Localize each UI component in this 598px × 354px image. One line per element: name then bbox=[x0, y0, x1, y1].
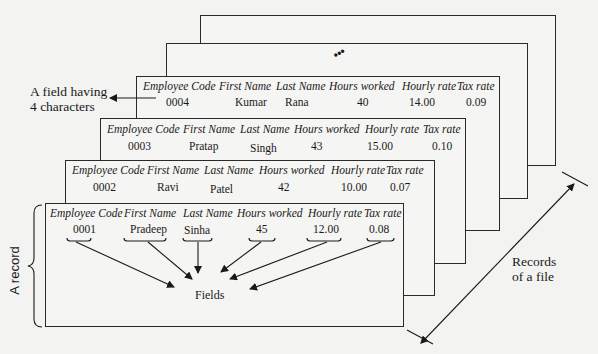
arrow-rate bbox=[230, 242, 327, 279]
records-label-line1: Records bbox=[512, 254, 556, 269]
records-tick-top bbox=[562, 172, 588, 186]
arrow-tax bbox=[250, 242, 381, 289]
brace-code bbox=[67, 238, 91, 241]
records-tick-bottom bbox=[407, 330, 433, 344]
record-label: A record bbox=[7, 246, 22, 294]
arrow-code bbox=[76, 242, 174, 287]
brace-tax bbox=[367, 238, 394, 241]
brace-hours bbox=[249, 238, 275, 241]
brace-rate bbox=[307, 238, 341, 241]
brace-first bbox=[124, 238, 166, 241]
arrow-hours bbox=[221, 242, 261, 272]
field-annotation-line2: 4 characters bbox=[30, 99, 107, 114]
records-of-file-label: Records of a file bbox=[512, 254, 556, 284]
records-label-line2: of a file bbox=[512, 269, 556, 284]
arrow-first bbox=[148, 242, 192, 279]
field-annotation-line1: A field having bbox=[30, 84, 107, 99]
record-brace bbox=[28, 205, 42, 327]
brace-last bbox=[183, 238, 212, 241]
annotation-overlay bbox=[0, 0, 598, 354]
field-annotation: A field having 4 characters bbox=[30, 84, 107, 114]
